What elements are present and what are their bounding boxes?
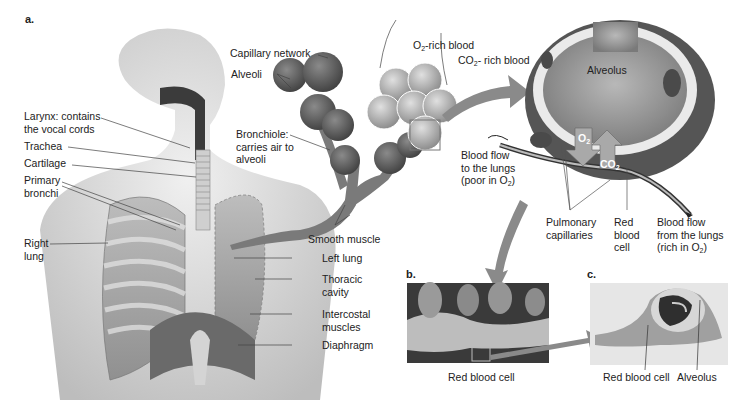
label-bronchiole: Bronchiole: carries air to alveoli (236, 128, 294, 166)
label-intercostal-muscles: Intercostal muscles (322, 308, 370, 333)
panel-label-b: b. (406, 268, 416, 280)
label-smooth-muscle: Smooth muscle (308, 233, 380, 246)
panel-c-histology (590, 283, 728, 370)
label-co2-arrow: CO2 (600, 158, 620, 171)
alveoli-clusters (273, 52, 457, 175)
panel-label-a: a. (25, 13, 34, 25)
label-co2-rich-blood: CO2- rich blood (458, 54, 530, 67)
label-primary-bronchi: Primary bronchi (24, 174, 60, 199)
label-alveoli: Alveoli (231, 68, 262, 81)
label-o2-rich-blood: O2-rich blood (413, 39, 474, 52)
label-trachea: Trachea (24, 140, 62, 153)
label-blood-flow-from-lungs: Blood flow from the lungs (rich in O2) (657, 216, 724, 254)
label-diaphragm: Diaphragm (322, 339, 373, 352)
label-right-lung: Right lung (24, 237, 49, 262)
panel-label-c: c. (587, 268, 596, 280)
label-capillary-network: Capillary network (230, 47, 311, 60)
alveolus-closeup (488, 20, 715, 218)
label-c-alveolus: Alveolus (677, 371, 717, 384)
label-o2-arrow: O2 (578, 132, 590, 145)
label-thoracic-cavity: Thoracic cavity (322, 273, 362, 298)
label-b-red-blood-cell: Red blood cell (448, 371, 515, 384)
label-larynx: Larynx: contains the vocal cords (24, 110, 100, 135)
label-pulmonary-capillaries: Pulmonary capillaries (546, 216, 596, 241)
label-red-blood-cell: Red blood cell (614, 216, 640, 254)
label-left-lung: Left lung (322, 252, 362, 265)
label-alveolus: Alveolus (587, 64, 627, 77)
label-blood-flow-to-lungs: Blood flow to the lungs (poor in O2) (461, 149, 515, 187)
zoom-arrow-b-icon (485, 200, 528, 292)
label-c-red-blood-cell: Red blood cell (603, 371, 670, 384)
label-cartilage: Cartilage (24, 157, 66, 170)
